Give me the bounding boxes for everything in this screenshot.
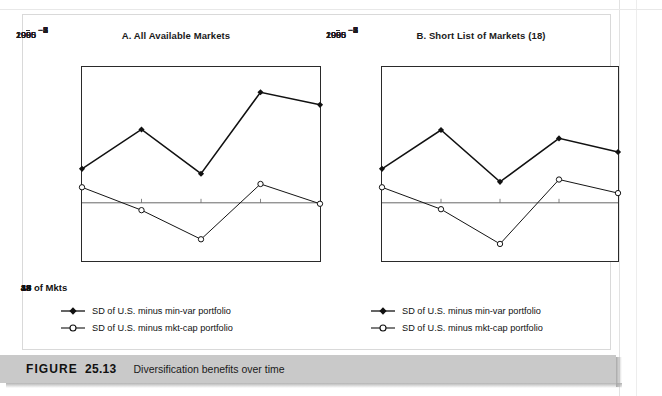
chart-panel-b: B. Short List of Markets (18) 76543210−1…: [336, 30, 626, 280]
scan-page-edge-right: [636, 0, 637, 396]
legend-label-mkt-cap: SD of U.S. minus mkt-cap portfolio: [92, 323, 233, 333]
data-point-open-circle: [379, 185, 384, 190]
filled-diamond-icon: [370, 305, 396, 317]
data-point-open-circle: [198, 237, 203, 242]
legend-item-mkt-cap: SD of U.S. minus mkt-cap portfolio: [370, 319, 543, 336]
data-point-open-circle: [79, 185, 84, 190]
panel-a-plot-area: [81, 66, 321, 262]
data-point-open-circle: [497, 241, 502, 246]
series-line-1: [82, 92, 320, 173]
data-point-open-circle: [556, 177, 561, 182]
caption-description: Diversification benefits over time: [133, 363, 284, 375]
figure-page: A. All Available Markets 76543210−1−2−3 …: [0, 0, 662, 396]
panel-a-series-svg: [82, 67, 320, 261]
filled-diamond-icon: [60, 305, 86, 317]
x-tick-label: 2005: [316, 30, 356, 40]
caption-bar-shadow: [616, 357, 622, 387]
legend-label-min-var: SD of U.S. minus min-var portfolio: [402, 306, 541, 316]
panel-b-series-svg: [382, 67, 618, 261]
legend-label-min-var: SD of U.S. minus min-var portfolio: [92, 306, 231, 316]
data-point-open-circle: [438, 207, 443, 212]
panel-b-plot-area: [381, 66, 619, 262]
panel-b-legend: SD of U.S. minus min-var portfolio SD of…: [370, 302, 543, 336]
panel-a-legend: SD of U.S. minus min-var portfolio SD of…: [60, 302, 233, 336]
scan-page-edge-top: [0, 9, 662, 10]
panel-b-title: B. Short List of Markets (18): [336, 30, 626, 41]
x-tick-label: 2005: [6, 30, 46, 40]
data-point-filled-diamond: [615, 149, 621, 155]
figure-caption-bar: FIGURE 25.13 Diversification benefits ov…: [0, 355, 616, 383]
panel-a-title: A. All Available Markets: [26, 30, 326, 41]
caption-figure-number: 25.13: [85, 362, 117, 376]
data-point-open-circle: [615, 190, 620, 195]
data-point-open-circle: [317, 201, 322, 206]
legend-item-mkt-cap: SD of U.S. minus mkt-cap portfolio: [60, 319, 233, 336]
series-line-1: [382, 130, 618, 182]
series-line-2: [82, 184, 320, 239]
legend-label-mkt-cap: SD of U.S. minus mkt-cap portfolio: [402, 323, 543, 333]
chart-panel-a: A. All Available Markets 76543210−1−2−3 …: [26, 30, 326, 280]
legend-item-min-var: SD of U.S. minus min-var portfolio: [370, 302, 543, 319]
open-circle-icon: [370, 322, 396, 334]
data-point-open-circle: [139, 207, 144, 212]
legend-item-min-var: SD of U.S. minus min-var portfolio: [60, 302, 233, 319]
number-of-markets-value: 43: [11, 282, 41, 293]
number-of-markets-row: # of Mkts 1819334343: [26, 282, 326, 296]
data-point-open-circle: [258, 181, 263, 186]
series-line-2: [382, 180, 618, 244]
data-point-filled-diamond: [317, 102, 323, 108]
open-circle-icon: [60, 322, 86, 334]
caption-figure-word: FIGURE: [26, 362, 78, 376]
